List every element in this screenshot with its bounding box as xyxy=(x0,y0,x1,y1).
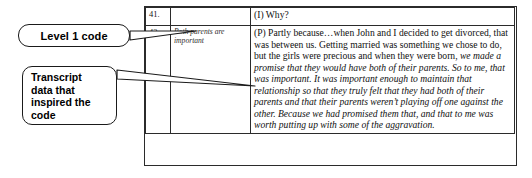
code-cell xyxy=(171,8,251,26)
transcript-cell: (P) Partly because…when John and I decid… xyxy=(251,26,515,134)
callout-level-1-code: Level 1 code xyxy=(18,24,130,47)
code-cell: Both parents are important xyxy=(171,26,251,134)
callout-transcript-line-4: code xyxy=(31,109,116,122)
line-number-cell: 42. xyxy=(146,26,171,134)
line-number-cell: 41. xyxy=(146,8,171,26)
callout-transcript-data: Transcript data that inspired the code xyxy=(22,66,117,125)
table-row: 41. (I) Why? xyxy=(146,8,515,26)
figure-canvas: Level 1 code Transcript data that inspir… xyxy=(0,0,532,178)
callout-level-1-code-line-1: Level 1 code xyxy=(40,30,107,42)
table-row: 42. Both parents are important (P) Partl… xyxy=(146,26,515,134)
callout-transcript-line-1: Transcript xyxy=(31,71,116,84)
callout-transcript-line-3: inspired the xyxy=(31,96,116,109)
callout-transcript-line-2: data that xyxy=(31,84,116,97)
transcript-cell: (I) Why? xyxy=(251,8,515,26)
coding-table: 41. (I) Why? 42. Both parents are import… xyxy=(145,7,515,134)
